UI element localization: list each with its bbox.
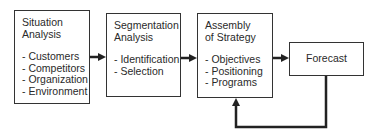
arrowhead-icon bbox=[98, 53, 106, 61]
arrowhead-icon bbox=[189, 54, 197, 62]
arrowhead-up-icon bbox=[232, 98, 240, 106]
arrowhead-icon bbox=[281, 54, 289, 62]
connectors bbox=[0, 0, 378, 136]
feedback-arrow-forecast-to-strategy bbox=[236, 76, 326, 127]
